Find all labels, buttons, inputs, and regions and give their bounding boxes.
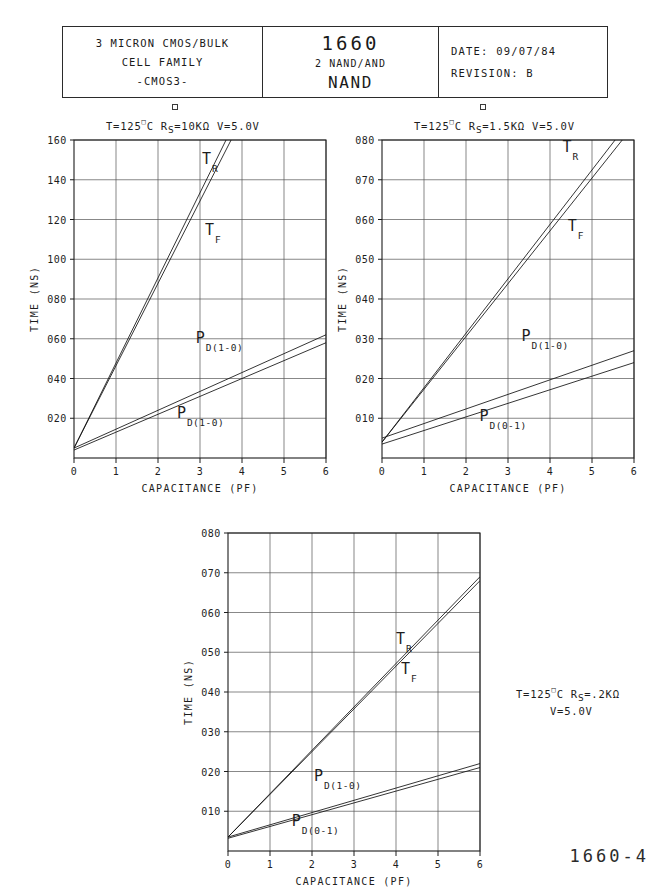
curve-label-subscript: R	[212, 163, 218, 174]
chart-gridlines	[74, 140, 326, 458]
svg-text:1: 1	[421, 466, 428, 477]
title-block: 3 MICRON CMOS/BULK CELL FAMILY -CMOS3- 1…	[62, 26, 608, 98]
part-name: NAND	[328, 73, 373, 93]
x-axis-ticks: 0123456	[379, 458, 638, 477]
x-axis-title: CAPACITANCE (PF)	[295, 876, 412, 887]
svg-text:080: 080	[201, 528, 221, 539]
chart-curve-labels: TRTFPD(1-0)PD(0-1)	[479, 138, 583, 432]
curve-label-subscript: R	[406, 643, 412, 654]
curve-label: T	[202, 150, 211, 168]
series-line	[382, 140, 615, 442]
curve-label-subscript: F	[411, 673, 417, 684]
svg-text:040: 040	[47, 374, 67, 385]
date-value: 09/07/84	[496, 45, 556, 57]
svg-text:030: 030	[201, 727, 221, 738]
x-axis-title: CAPACITANCE (PF)	[449, 483, 566, 494]
svg-text:100: 100	[47, 254, 67, 265]
x-axis-ticks: 0123456	[225, 851, 484, 870]
svg-text:050: 050	[201, 647, 221, 658]
curve-label-subscript: D(1-0)	[324, 780, 361, 791]
svg-text:080: 080	[47, 294, 67, 305]
svg-text:040: 040	[201, 687, 221, 698]
curve-label-subscript: D(0-1)	[302, 825, 339, 836]
chart-conditions: T=125□C RS=1.5KΩ V=5.0V	[414, 118, 575, 135]
series-line	[74, 140, 226, 448]
curve-label-subscript: F	[578, 230, 584, 241]
svg-text:070: 070	[201, 568, 221, 579]
svg-text:6: 6	[477, 859, 484, 870]
registration-mark-left	[172, 104, 178, 110]
svg-text:050: 050	[355, 254, 375, 265]
svg-text:3: 3	[197, 466, 204, 477]
svg-text:0: 0	[71, 466, 78, 477]
svg-text:6: 6	[631, 466, 638, 477]
curve-label: P	[177, 404, 186, 422]
svg-text:140: 140	[47, 175, 67, 186]
x-axis-ticks: 0123456	[71, 458, 330, 477]
curve-label: T	[396, 630, 405, 648]
svg-text:1: 1	[267, 859, 274, 870]
y-axis-ticks: 020040060080100120140160	[47, 135, 74, 424]
curve-label: T	[205, 221, 214, 239]
part-number: 1660	[322, 31, 380, 55]
chart-rs-1p5k: T=125□C RS=1.5KΩ V=5.0V01002003004005006…	[330, 112, 648, 502]
curve-label: P	[196, 329, 205, 347]
part-description: 2 NAND/AND	[315, 55, 386, 73]
svg-text:060: 060	[355, 215, 375, 226]
cell-family-info: 3 MICRON CMOS/BULK CELL FAMILY -CMOS3-	[63, 27, 263, 97]
svg-text:V=5.0V: V=5.0V	[550, 705, 593, 717]
svg-text:1: 1	[113, 466, 120, 477]
curve-label: P	[292, 812, 301, 830]
svg-text:3: 3	[351, 859, 358, 870]
svg-text:060: 060	[47, 334, 67, 345]
curve-label-subscript: D(0-1)	[489, 420, 526, 431]
y-axis-title: TIME (NS)	[337, 266, 348, 332]
svg-text:2: 2	[309, 859, 316, 870]
page-code: 1660-4	[570, 846, 649, 866]
chart-rs-0p2k: T=125□C RS=.2KΩV=5.0V0100200300400500600…	[176, 505, 666, 892]
chart-gridlines	[382, 140, 634, 458]
y-axis-ticks: 010020030040050060070080	[355, 135, 382, 424]
chart-conditions: T=125□C RS=.2KΩV=5.0V	[516, 686, 620, 717]
curve-label: T	[568, 217, 577, 235]
family-code-line: -CMOS3-	[137, 72, 189, 91]
svg-text:0: 0	[379, 466, 386, 477]
curve-label-subscript: D(1-0)	[206, 342, 243, 353]
cell-revision-info: DATE: 09/07/84 REVISION: B	[439, 27, 607, 97]
curve-label: T	[563, 138, 572, 156]
svg-text:3: 3	[505, 466, 512, 477]
revision-label: REVISION:	[451, 67, 519, 79]
svg-text:T=125□C RS=1.5KΩ V=5.0V: T=125□C RS=1.5KΩ V=5.0V	[414, 118, 575, 135]
svg-text:2: 2	[463, 466, 470, 477]
svg-text:160: 160	[47, 135, 67, 146]
y-axis-title: TIME (NS)	[29, 266, 40, 332]
date-label: DATE:	[451, 45, 489, 57]
curve-label: P	[314, 767, 323, 785]
svg-text:030: 030	[355, 334, 375, 345]
y-axis-ticks: 010020030040050060070080	[201, 528, 228, 817]
svg-text:020: 020	[355, 374, 375, 385]
svg-text:040: 040	[355, 294, 375, 305]
registration-mark-right	[480, 104, 486, 110]
svg-text:5: 5	[589, 466, 596, 477]
chart-conditions: T=125□C RS=10KΩ V=5.0V	[106, 118, 260, 135]
svg-text:5: 5	[435, 859, 442, 870]
svg-text:080: 080	[355, 135, 375, 146]
curve-label-subscript: F	[215, 234, 221, 245]
chart-rs-10k: T=125□C RS=10KΩ V=5.0V020040060080100120…	[22, 112, 340, 502]
x-axis-title: CAPACITANCE (PF)	[141, 483, 258, 494]
curve-label: P	[479, 407, 488, 425]
svg-text:4: 4	[547, 466, 554, 477]
svg-text:070: 070	[355, 175, 375, 186]
y-axis-title: TIME (NS)	[183, 659, 194, 725]
curve-label: T	[401, 660, 410, 678]
curve-label-subscript: D(1-0)	[531, 340, 568, 351]
family-process-line: 3 MICRON CMOS/BULK	[96, 34, 230, 53]
svg-text:020: 020	[47, 413, 67, 424]
svg-text:4: 4	[393, 859, 400, 870]
svg-text:6: 6	[323, 466, 330, 477]
svg-text:5: 5	[281, 466, 288, 477]
series-line	[74, 140, 231, 448]
curve-label-subscript: R	[573, 151, 579, 162]
svg-text:T=125□C RS=10KΩ V=5.0V: T=125□C RS=10KΩ V=5.0V	[106, 118, 260, 135]
